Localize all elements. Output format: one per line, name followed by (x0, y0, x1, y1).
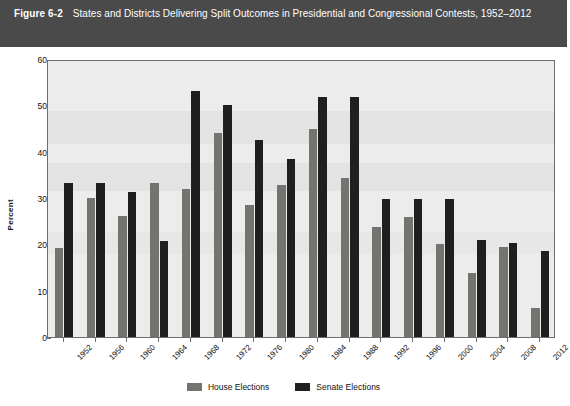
figure-title: States and Districts Delivering Split Ou… (73, 7, 532, 21)
x-tick-label: 1968 (202, 343, 221, 362)
bar-senate[interactable] (318, 97, 327, 337)
bar-senate[interactable] (96, 183, 105, 337)
x-tick-mark (126, 338, 127, 342)
x-tick-label: 1976 (266, 343, 285, 362)
x-tick-label: 1972 (234, 343, 253, 362)
y-axis-ticks: 0102030405060 (17, 60, 47, 338)
y-tick-label: 50 (23, 101, 47, 111)
bar-senate[interactable] (223, 105, 232, 337)
x-tick-label: 2000 (456, 343, 475, 362)
y-tick-label: 40 (23, 148, 47, 158)
bar-senate[interactable] (128, 192, 137, 337)
bar-senate[interactable] (350, 97, 359, 337)
x-tick-label: 1988 (361, 343, 380, 362)
bar-house[interactable] (87, 198, 96, 337)
bar-senate[interactable] (255, 140, 264, 337)
x-tick-label: 2012 (551, 343, 570, 362)
bar-group (143, 61, 175, 337)
bar-group (239, 61, 271, 337)
bar-group (429, 61, 461, 337)
y-tick-label: 60 (23, 55, 47, 65)
x-tick-mark (476, 338, 477, 342)
bar-house[interactable] (150, 183, 159, 337)
bar-house[interactable] (309, 129, 318, 338)
bar-group (302, 61, 334, 337)
bar-senate[interactable] (191, 91, 200, 337)
bar-senate[interactable] (382, 199, 391, 337)
bar-group (48, 61, 80, 337)
legend-item-senate[interactable]: Senate Elections (295, 382, 380, 392)
bar-house[interactable] (245, 205, 254, 337)
bar-house[interactable] (277, 185, 286, 337)
bar-group (112, 61, 144, 337)
x-tick-mark (285, 338, 286, 342)
x-tick-mark (253, 338, 254, 342)
x-tick-label: 1956 (107, 343, 126, 362)
bar-senate[interactable] (477, 240, 486, 337)
chart-area: Percent 0102030405060 195219561960196419… (0, 47, 567, 406)
bar-group (397, 61, 429, 337)
x-tick-mark (507, 338, 508, 342)
bar-senate[interactable] (509, 243, 518, 337)
bar-senate[interactable] (287, 159, 296, 337)
figure-header: Figure 6-2 States and Districts Deliveri… (0, 0, 567, 47)
bar-group (80, 61, 112, 337)
x-tick-mark (190, 338, 191, 342)
y-axis-title: Percent (6, 217, 15, 231)
bar-group (207, 61, 239, 337)
bar-group (493, 61, 525, 337)
x-tick-mark (539, 338, 540, 342)
x-tick-mark (63, 338, 64, 342)
figure-number: Figure 6-2 (14, 7, 73, 21)
x-tick-label: 1952 (75, 343, 94, 362)
bar-group (366, 61, 398, 337)
x-tick-mark (349, 338, 350, 342)
x-tick-label: 2004 (488, 343, 507, 362)
chart-legend: House Elections Senate Elections (0, 382, 567, 392)
bar-house[interactable] (499, 247, 508, 337)
legend-swatch-house-icon (187, 383, 202, 391)
y-tick-label: 0 (23, 333, 47, 343)
bar-house[interactable] (372, 227, 381, 337)
x-tick-mark (222, 338, 223, 342)
x-tick-mark (412, 338, 413, 342)
bar-group (524, 61, 555, 337)
bar-senate[interactable] (64, 183, 73, 337)
y-tick-label: 20 (23, 240, 47, 250)
bar-house[interactable] (404, 217, 413, 337)
bar-group (175, 61, 207, 337)
bar-house[interactable] (118, 216, 127, 337)
bar-house[interactable] (341, 178, 350, 337)
x-tick-mark (444, 338, 445, 342)
x-tick-mark (317, 338, 318, 342)
bar-house[interactable] (214, 133, 223, 337)
bar-house[interactable] (182, 189, 191, 337)
x-tick-label: 1992 (393, 343, 412, 362)
bars-layer (48, 61, 554, 337)
x-tick-label: 1996 (424, 343, 443, 362)
bar-group (461, 61, 493, 337)
bar-senate[interactable] (414, 199, 423, 337)
bar-house[interactable] (55, 248, 64, 337)
x-tick-label: 1984 (329, 343, 348, 362)
x-tick-mark (380, 338, 381, 342)
bar-senate[interactable] (541, 251, 550, 337)
bar-house[interactable] (436, 244, 445, 337)
legend-label-house: House Elections (208, 382, 269, 392)
bar-house[interactable] (468, 273, 477, 337)
legend-swatch-senate-icon (295, 383, 310, 391)
legend-label-senate: Senate Elections (316, 382, 380, 392)
bar-house[interactable] (531, 308, 540, 337)
legend-item-house[interactable]: House Elections (187, 382, 269, 392)
bar-group (270, 61, 302, 337)
x-tick-label: 1964 (170, 343, 189, 362)
bar-group (334, 61, 366, 337)
y-tick-label: 30 (23, 194, 47, 204)
bar-senate[interactable] (160, 241, 169, 337)
x-tick-label: 2008 (520, 343, 539, 362)
x-tick-label: 1980 (297, 343, 316, 362)
plot-frame (47, 60, 555, 338)
x-tick-label: 1960 (139, 343, 158, 362)
x-tick-mark (158, 338, 159, 342)
bar-senate[interactable] (445, 199, 454, 337)
